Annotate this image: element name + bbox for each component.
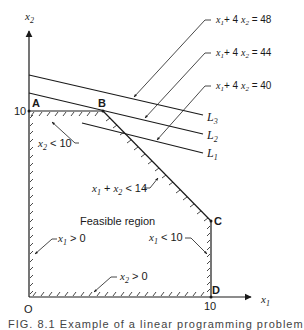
vertex-a-dot — [28, 110, 31, 113]
objective-line-l3 — [29, 75, 203, 115]
constraint-x2-gt-0: x2 > 0 — [119, 270, 148, 285]
leader-x2-gt-0 — [94, 277, 117, 292]
x-axis-label: x1 — [260, 293, 270, 308]
objective-line-l1 — [82, 123, 203, 153]
objective-line-l2-label: L2 — [206, 128, 218, 144]
figure-caption: FIG. 8.1 Example of a linear programming… — [8, 318, 304, 330]
objective-line-l1-label: L1 — [206, 146, 218, 162]
vertex-c-label: C — [214, 215, 222, 227]
constraint-x1-lt-10: x1 < 10 — [148, 231, 183, 246]
leader-l2 — [145, 53, 211, 118]
constraint-sum-lt-14: x1 + x2 < 14 — [91, 182, 147, 197]
constraint-x1-gt-0: x1 > 0 — [57, 232, 86, 247]
objective-eq-44: x1+ 4 x2 = 44 — [215, 47, 272, 60]
y-tick-10: 10 — [14, 105, 26, 117]
vertex-a-label: A — [32, 97, 40, 109]
objective-line-l2 — [29, 93, 203, 134]
y-axis-label: x2 — [24, 10, 34, 25]
constraint-x2-lt-10: x2 < 10 — [37, 137, 72, 152]
leader-x1-lt-10 — [185, 238, 207, 254]
objective-line-l3-label: L3 — [206, 110, 218, 126]
x-tick-10: 10 — [204, 300, 216, 312]
origin-label: O — [24, 303, 33, 315]
feasible-region-label: Feasible region — [80, 215, 155, 227]
objective-eq-40: x1+ 4 x2 = 40 — [215, 80, 272, 93]
objective-eq-48: x1+ 4 x2 = 48 — [215, 14, 272, 27]
vertex-d-label: D — [212, 284, 220, 296]
vertex-c-dot — [210, 220, 213, 223]
leader-l1 — [157, 86, 211, 140]
vertex-b-label: B — [98, 97, 106, 109]
leader-x1-gt-0 — [35, 239, 57, 254]
